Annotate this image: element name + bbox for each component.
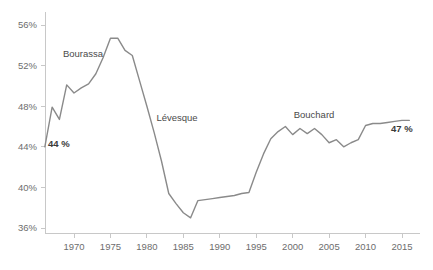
x-axis-tick-label: 1980 <box>136 241 157 252</box>
x-axis-tick-group: 1970197519801985199019952000200520102015 <box>63 233 412 252</box>
x-axis-tick-label: 2005 <box>319 241 340 252</box>
y-axis-tick-label: 56% <box>18 19 38 30</box>
data-series-line <box>45 38 409 218</box>
y-axis-tick-label: 48% <box>18 101 38 112</box>
x-axis-tick-label: 2015 <box>391 241 412 252</box>
chart-plot-area: 56%52%48%44%40%36% 197019751980198519901… <box>0 0 433 270</box>
annotation-start-value: 44 % <box>48 138 70 149</box>
annotation-end-value: 47 % <box>391 123 413 134</box>
y-axis-tick-label: 44% <box>18 141 38 152</box>
x-axis-tick-label: 2010 <box>355 241 376 252</box>
x-axis-tick-label: 1995 <box>246 241 267 252</box>
annotation-group: BourassaLévesqueBouchard44 %47 % <box>48 48 413 149</box>
annotation-levesque: Lévesque <box>156 112 197 123</box>
x-axis-tick-label: 2000 <box>282 241 303 252</box>
y-axis-tick-label: 52% <box>18 60 38 71</box>
x-axis-tick-label: 1970 <box>63 241 84 252</box>
x-axis-tick-label: 1985 <box>173 241 194 252</box>
annotation-bourassa: Bourassa <box>63 48 104 59</box>
annotation-bouchard: Bouchard <box>294 109 335 120</box>
line-chart: 56%52%48%44%40%36% 197019751980198519901… <box>0 0 433 270</box>
y-axis-tick-label: 40% <box>18 182 38 193</box>
x-axis-tick-label: 1975 <box>100 241 121 252</box>
y-axis-tick-label: 36% <box>18 222 38 233</box>
y-axis-tick-group: 56%52%48%44%40%36% <box>18 19 45 233</box>
x-axis-tick-label: 1990 <box>209 241 230 252</box>
